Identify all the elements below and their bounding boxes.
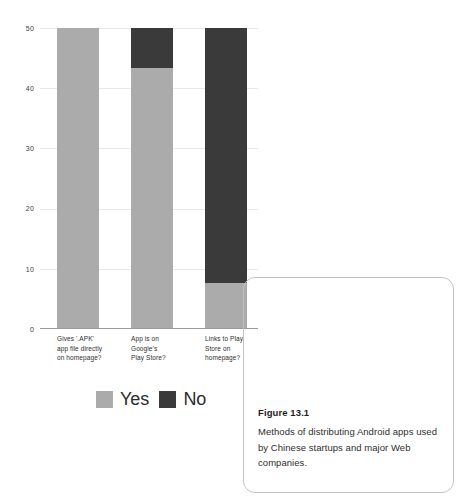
figure-caption-body: Figure 13.1 Methods of distributing Andr… (258, 406, 444, 471)
legend-entry-no: No (159, 390, 206, 408)
x-category-label-on-play-store: App is on Google's Play Store? (131, 334, 193, 363)
bar-segment-no (131, 28, 173, 68)
bar-segment-yes (205, 283, 247, 329)
legend-swatch-icon-yes (96, 391, 113, 408)
y-tick-label-50: 50 (26, 25, 34, 32)
legend-entry-yes: Yes (96, 390, 149, 408)
x-category-line: Gives '.APK' (57, 334, 119, 344)
y-axis: 50 40 30 20 10 0 (0, 28, 40, 329)
x-category-line: App is on (131, 334, 193, 344)
bar-group-apk-direct (57, 28, 99, 329)
figure-caption-title: Figure 13.1 (258, 406, 444, 419)
y-tick-label-20: 20 (26, 205, 34, 212)
bar-group-on-play-store (131, 28, 173, 329)
x-axis-line (40, 328, 258, 329)
figure-13-1: 50 40 30 20 10 0 Gives '.AP (0, 0, 461, 503)
y-tick-label-0: 0 (30, 326, 34, 333)
y-tick-label-40: 40 (26, 85, 34, 92)
x-category-line: Google's (131, 344, 193, 354)
plot-area (40, 28, 258, 329)
y-tick-label-10: 10 (26, 266, 34, 273)
bar-segment-yes (57, 28, 99, 329)
bar-group-links-to-play-store (205, 28, 247, 329)
x-category-line: Play Store? (131, 353, 193, 363)
bar-segment-no (205, 28, 247, 283)
x-category-label-apk-direct: Gives '.APK' app file directly on homepa… (57, 334, 119, 363)
figure-caption-text: Methods of distributing Android apps use… (258, 424, 444, 471)
legend-swatch-icon-no (159, 391, 176, 408)
bar-segment-yes (131, 68, 173, 329)
y-tick-label-30: 30 (26, 145, 34, 152)
legend-label-no: No (183, 390, 206, 408)
legend-label-yes: Yes (120, 390, 149, 408)
x-category-line: on homepage? (57, 353, 119, 363)
x-category-line: app file directly (57, 344, 119, 354)
figure-caption-card: Figure 13.1 Methods of distributing Andr… (243, 277, 454, 493)
chart-legend: Yes No (96, 390, 206, 408)
